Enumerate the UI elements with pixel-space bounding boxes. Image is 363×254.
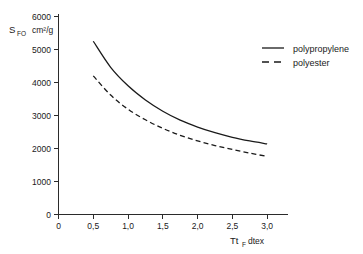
chart-figure: 0100020003000400050006000 00,51,01,52,02… [0,0,363,254]
x-tick-label: 2,0 [192,221,204,231]
x-axis-title-sub: F [242,241,246,248]
x-axis-title-main: Tt [230,235,239,246]
y-tick-label: 3000 [32,111,51,121]
y-tick-label: 1000 [32,177,51,187]
x-tick-label: 3,0 [261,221,273,231]
y-tick-label: 4000 [32,78,51,88]
y-axis-unit: cm²/g [32,25,54,35]
x-tick-label: 0,5 [87,221,99,231]
x-tick-label: 1,5 [157,221,169,231]
y-tick-label: 0 [46,210,51,220]
legend-label-polyester: polyester [293,58,330,68]
x-tick-label: 1,0 [122,221,134,231]
y-tick-label: 6000 [32,12,51,22]
x-tick-label: 0 [56,221,61,231]
y-axis-title-sub: FO [17,30,26,37]
y-tick-label: 2000 [32,144,51,154]
line-chart: 0100020003000400050006000 00,51,01,52,02… [0,0,363,254]
x-tick-label: 2,5 [226,221,238,231]
x-axis-unit: dtex [248,236,265,246]
y-axis-title-main: S [9,24,15,35]
legend-label-polypropylene: polypropylene [293,44,349,54]
y-tick-label: 5000 [32,45,51,55]
chart-background [0,0,363,254]
